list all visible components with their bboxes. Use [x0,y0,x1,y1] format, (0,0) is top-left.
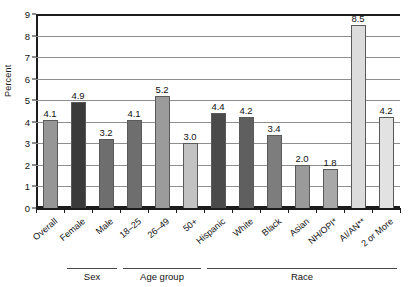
bar-50 [183,143,198,208]
gridline-8 [36,36,400,37]
bar-male [99,139,114,208]
bar-2-or-more [379,117,394,208]
bar-value-asian: 2.0 [295,153,308,164]
bar-overall [43,120,58,208]
x-tick-8 [260,208,261,213]
group-bracket-line-race [207,268,397,269]
bar-ai-an [351,25,366,208]
x-tick-3 [120,208,121,213]
y-tick-label-0: 0 [8,203,30,214]
x-tick-11 [344,208,345,213]
group-bracket-line-sex [67,268,117,269]
bar-26-49 [155,96,170,208]
y-tick-label-9: 9 [8,9,30,20]
bar-white [239,117,254,208]
y-tick-label-5: 5 [8,95,30,106]
cropped-title-remnant [215,0,405,5]
bar-value-female: 4.9 [71,90,84,101]
y-axis-line [36,14,38,208]
y-tick-label-2: 2 [8,159,30,170]
gridline-7 [36,57,400,58]
y-tick-label-3: 3 [8,138,30,149]
bar-black [267,135,282,208]
bar-value-2-or-more: 4.2 [379,105,392,116]
bar-value-50: 3.0 [183,131,196,142]
bar-value-18-25: 4.1 [127,108,140,119]
x-tick-10 [316,208,317,213]
group-label-age-group: Age group [140,271,184,282]
x-tick-2 [92,208,93,213]
x-tick-6 [204,208,205,213]
bar-18-25 [127,120,142,208]
x-tick-12 [372,208,373,213]
gridline-0 [36,208,400,210]
x-tick-1 [64,208,65,213]
x-tick-9 [288,208,289,213]
bar-value-overall: 4.1 [43,108,56,119]
bar-hispanic [211,113,226,208]
bar-value-hispanic: 4.4 [211,101,224,112]
bar-chart: Percent 0123456789 4.14.93.24.15.23.04.4… [0,0,408,287]
y-tick-label-7: 7 [8,52,30,63]
gridline-6 [36,79,400,80]
x-tick-0 [36,208,37,213]
bar-value-black: 3.4 [267,123,280,134]
bar-value-ai-an: 8.5 [351,13,364,24]
group-bracket-line-age-group [123,268,201,269]
x-tick-13 [400,208,401,213]
x-tick-5 [176,208,177,213]
y-tick-label-6: 6 [8,73,30,84]
bar-value-nh-opi: 1.8 [323,157,336,168]
bar-asian [295,165,310,208]
bar-value-male: 3.2 [99,127,112,138]
x-tick-7 [232,208,233,213]
bar-value-white: 4.2 [239,105,252,116]
y-tick-label-4: 4 [8,116,30,127]
y-tick-label-8: 8 [8,30,30,41]
plot-top-border [36,14,400,16]
y-tick-label-1: 1 [8,181,30,192]
bar-nh-opi [323,169,338,208]
bar-value-26-49: 5.2 [155,84,168,95]
bar-female [71,102,86,208]
group-label-sex: Sex [84,271,100,282]
x-tick-4 [148,208,149,213]
group-label-race: Race [291,271,313,282]
